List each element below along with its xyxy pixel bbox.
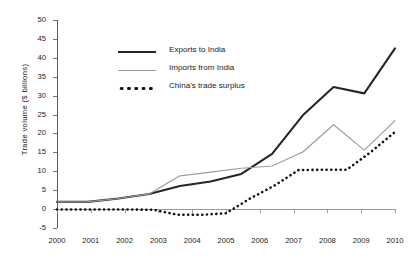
- x-axis-tick-label: 2010: [375, 236, 408, 245]
- y-axis-tick-label: -5: [22, 223, 46, 232]
- y-axis-tick-label: 20: [22, 128, 46, 137]
- legend-label-exports: Exports to India: [169, 45, 225, 54]
- y-axis-tick-label: 25: [22, 110, 46, 119]
- y-axis-tick: [53, 228, 57, 229]
- series-line-imports-from-india: [57, 121, 395, 202]
- y-axis-tick-label: 45: [22, 34, 46, 43]
- solid-gray-line-icon: [118, 70, 156, 71]
- x-axis-tick: [395, 209, 396, 213]
- y-axis-tick-label: 35: [22, 72, 46, 81]
- y-axis-tick-label: 15: [22, 147, 46, 156]
- y-axis-tick-label: 50: [22, 15, 46, 24]
- legend-label-imports: Imports from India: [169, 63, 234, 72]
- y-axis-tick-label: 40: [22, 53, 46, 62]
- y-axis-tick-label: 30: [22, 91, 46, 100]
- legend-item-surplus: China's trade surplus: [118, 79, 293, 97]
- series-line-china-s-trade-surplus: [57, 132, 395, 215]
- dotted-black-line-icon: [118, 87, 156, 90]
- y-axis-tick-label: 0: [22, 204, 46, 213]
- y-axis-tick-label: 10: [22, 166, 46, 175]
- chart-legend: Exports to India Imports from India Chin…: [118, 43, 293, 97]
- y-axis-tick-label: 5: [22, 185, 46, 194]
- solid-dark-line-icon: [118, 51, 156, 53]
- legend-item-exports: Exports to India: [118, 43, 293, 61]
- legend-label-surplus: China's trade surplus: [169, 81, 245, 90]
- legend-item-imports: Imports from India: [118, 61, 293, 79]
